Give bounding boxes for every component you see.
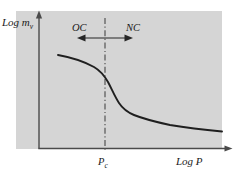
region-label-nc: NC xyxy=(125,22,141,33)
chart-svg: Log mv Log P Pc OC NC xyxy=(0,0,238,171)
xtick-label-subscript: c xyxy=(104,161,108,170)
region-label-oc: OC xyxy=(72,22,88,33)
x-axis-tick-label-critical-pressure: Pc xyxy=(97,156,108,170)
y-axis-label-main: Log m xyxy=(1,16,30,28)
figure-root: Log mv Log P Pc OC NC xyxy=(0,0,238,171)
x-axis-label: Log P xyxy=(175,155,203,167)
x-axis-arrowhead-icon xyxy=(225,145,233,151)
